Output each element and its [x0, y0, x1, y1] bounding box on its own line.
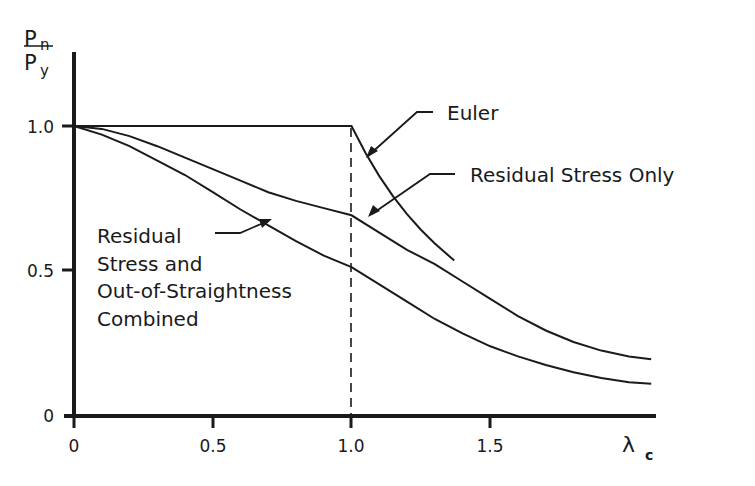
x-tick-label: 1.5: [476, 436, 503, 456]
column-strength-chart: P n P y 1.0 0.5 0 0 0.5 1.0 1.5 λ c: [0, 0, 755, 486]
combined-leader: [215, 221, 268, 233]
svg-text:Out-of-Straightness: Out-of-Straightness: [97, 279, 292, 303]
annotation-arrowheads: [259, 146, 380, 228]
x-tick-label: 0.5: [199, 436, 226, 456]
x-ticks: 0 0.5 1.0 1.5: [69, 416, 504, 456]
x-axis-title: λ c: [622, 432, 653, 463]
y-tick-label: 1.0: [27, 117, 54, 137]
residual-only-leader: [372, 174, 455, 214]
svg-text:c: c: [645, 447, 653, 463]
y-tick-label: 0.5: [27, 261, 54, 281]
y-title-denominator: P: [24, 51, 37, 75]
svg-text:Combined: Combined: [97, 307, 199, 331]
y-tick-label: 0: [43, 406, 54, 426]
arrowhead-icon: [368, 205, 380, 217]
svg-text:Residual: Residual: [97, 224, 181, 248]
y-title-numerator: P: [24, 27, 37, 51]
x-tick-label: 1.0: [337, 436, 364, 456]
y-title-denominator-sub: y: [40, 62, 49, 80]
y-title-numerator-sub: n: [40, 36, 50, 54]
label-residual-stress-only: Residual Stress Only: [470, 163, 675, 187]
svg-text:λ: λ: [622, 432, 635, 457]
label-euler: Euler: [447, 101, 499, 125]
x-tick-label: 0: [69, 436, 80, 456]
svg-text:Stress and: Stress and: [97, 252, 202, 276]
label-combined: Residual Stress and Out-of-Straightness …: [97, 224, 292, 331]
euler-leader: [368, 112, 433, 156]
y-axis-title: P n P y: [24, 27, 53, 80]
y-ticks: 1.0 0.5 0: [27, 117, 74, 426]
